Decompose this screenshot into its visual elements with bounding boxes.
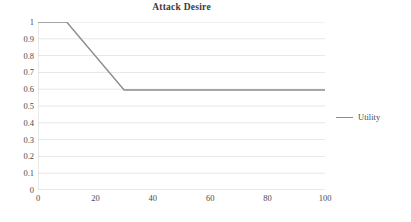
x-tick-label: 60: [190, 193, 230, 203]
y-axis-tick-labels: 00.10.20.30.40.50.60.70.80.91: [0, 22, 34, 190]
y-tick-label: 0.2: [2, 152, 34, 161]
x-tick-label: 40: [133, 193, 173, 203]
data-series-layer: [38, 22, 325, 190]
y-tick-label: 0.5: [2, 102, 34, 111]
y-tick-label: 0.7: [2, 68, 34, 77]
x-axis-tick-labels: 020406080100: [38, 193, 325, 209]
chart-title: Attack Desire: [38, 2, 325, 12]
y-tick-label: 0.3: [2, 135, 34, 144]
legend-line-swatch-utility: [336, 117, 353, 118]
y-tick-label: 0.6: [2, 85, 34, 94]
y-tick-label: 0.4: [2, 119, 34, 128]
x-tick-label: 0: [18, 193, 58, 203]
plot-area: [38, 22, 325, 190]
y-tick-label: 0.9: [2, 35, 34, 44]
x-tick-label: 100: [305, 193, 345, 203]
x-tick-label: 20: [75, 193, 115, 203]
chart-container: Attack Desire 00.10.20.30.40.50.60.70.80…: [0, 0, 411, 222]
y-tick-label: 0.8: [2, 51, 34, 60]
x-tick-label: 80: [248, 193, 288, 203]
y-tick-label: 0.1: [2, 169, 34, 178]
chart-legend: Utility: [336, 112, 380, 122]
legend-label-utility: Utility: [358, 112, 380, 122]
y-tick-label: 1: [2, 18, 34, 27]
